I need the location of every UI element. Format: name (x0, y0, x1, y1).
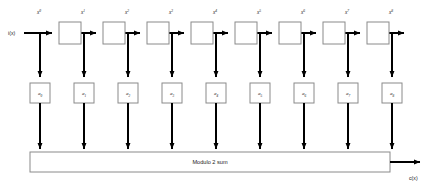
diagram-canvas: x0 x1 x2 x3 x4 x5 x6 x7 x8 a0 a1 a2 a3 a… (0, 0, 443, 189)
delay-box-3 (191, 22, 213, 44)
delay-exponent-label-1: x1 (80, 9, 85, 15)
delay-exponent-label-0: x0 (36, 9, 41, 15)
delay-box-0 (59, 22, 81, 44)
delay-box-7 (367, 22, 389, 44)
delay-exponent-label-4: x4 (212, 9, 217, 15)
shift-register-diagram: x0 x1 x2 x3 x4 x5 x6 x7 x8 a0 a1 a2 a3 a… (0, 0, 443, 189)
delay-box-2 (147, 22, 169, 44)
delay-box-1 (103, 22, 125, 44)
delay-exponent-label-6: x6 (300, 9, 305, 15)
delay-exponent-label-5: x5 (256, 9, 261, 15)
delay-exponent-label-7: x7 (344, 9, 349, 15)
input-label: i(x) (8, 30, 15, 36)
modulo-2-sum-label: Modulo 2 sum (192, 159, 227, 165)
delay-exponent-label-2: x2 (124, 9, 129, 15)
output-label: c(x) (409, 175, 418, 181)
delay-exponent-label-3: x3 (168, 9, 173, 15)
delay-box-6 (323, 22, 345, 44)
delay-box-5 (279, 22, 301, 44)
delay-box-4 (235, 22, 257, 44)
delay-exponent-labels: x0 x1 x2 x3 x4 x5 x6 x7 x8 (36, 9, 393, 15)
tap-drop-lines-lower (40, 103, 392, 149)
delay-exponent-label-8: x8 (388, 9, 393, 15)
